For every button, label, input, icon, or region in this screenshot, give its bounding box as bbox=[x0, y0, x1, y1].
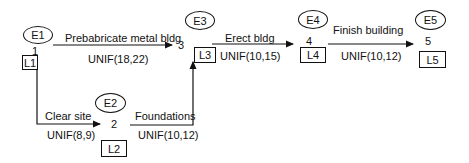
activity-duration-1-2: UNIF(8,9) bbox=[47, 129, 95, 141]
activity-duration-4-5: UNIF(10,12) bbox=[341, 50, 402, 62]
late-label: L5 bbox=[426, 54, 438, 66]
node-number-4: 4 bbox=[306, 35, 312, 47]
late-box-l5: L5 bbox=[419, 51, 446, 68]
late-box-l4: L4 bbox=[300, 47, 326, 63]
event-label: E2 bbox=[104, 97, 117, 109]
activity-duration-1-3: UNIF(18,22) bbox=[88, 53, 149, 65]
event-label: E3 bbox=[193, 15, 206, 27]
activity-name-1-3: Prebabricate metal bldg bbox=[65, 32, 181, 44]
event-label: E4 bbox=[306, 14, 319, 26]
event-ellipse-e1: E1 bbox=[23, 26, 53, 44]
activity-duration-2-3: UNIF(10,12) bbox=[138, 129, 199, 141]
event-ellipse-e2: E2 bbox=[95, 93, 126, 113]
event-ellipse-e5: E5 bbox=[415, 10, 446, 30]
late-box-l2: L2 bbox=[101, 140, 127, 157]
event-ellipse-e3: E3 bbox=[185, 11, 215, 30]
activity-duration-3-4: UNIF(10,15) bbox=[220, 50, 281, 62]
late-box-l1: L1 bbox=[22, 55, 38, 70]
activity-name-2-3: Foundations bbox=[135, 110, 196, 122]
activity-name-4-5: Finish building bbox=[333, 24, 403, 36]
late-label: L4 bbox=[307, 49, 319, 61]
activity-name-1-2: Clear site bbox=[45, 110, 91, 122]
late-label: L3 bbox=[199, 49, 211, 61]
event-label: E5 bbox=[424, 14, 437, 26]
event-ellipse-e4: E4 bbox=[298, 10, 328, 29]
late-label: L1 bbox=[24, 57, 36, 69]
node-number-5: 5 bbox=[425, 35, 431, 47]
late-box-l3: L3 bbox=[194, 47, 216, 63]
activity-name-3-4: Erect bldg bbox=[225, 32, 275, 44]
node-number-2: 2 bbox=[111, 118, 117, 130]
event-label: E1 bbox=[31, 29, 44, 41]
late-label: L2 bbox=[108, 143, 120, 155]
